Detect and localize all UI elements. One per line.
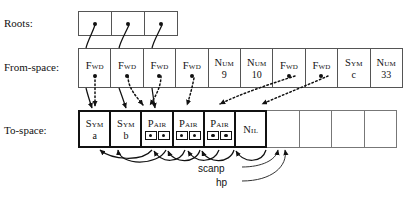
root-to-fromspace-arrows	[86, 25, 162, 48]
pair-car-slot	[207, 131, 219, 140]
to-space-cell: Sym b	[109, 110, 142, 148]
pair-slots	[176, 131, 201, 140]
pair-cdr-slot	[189, 131, 201, 140]
pointer-dot-icon	[149, 134, 152, 137]
pair-slots	[145, 131, 170, 140]
root-to-tospace-arrows	[86, 88, 155, 108]
cell-value: a	[92, 130, 96, 141]
pointer-dot-icon	[224, 134, 227, 137]
pair-cdr-slot	[220, 131, 232, 140]
pair-slots	[207, 131, 232, 140]
cell-tag: Sym	[117, 118, 135, 129]
pair-car-slot	[176, 131, 188, 140]
cell-tag: Pair	[148, 118, 167, 129]
pair-car-slot	[145, 131, 157, 140]
cell-tag: Sym	[86, 118, 104, 129]
to-space-cell: Nil	[234, 110, 267, 148]
pointer-dot-icon	[180, 134, 183, 137]
cell-tag: Nil	[243, 124, 258, 135]
cell-value: b	[123, 130, 128, 141]
forwarding-pointer-arrows	[95, 76, 328, 106]
tospace-internal-arrows	[100, 150, 266, 162]
cell-tag: Pair	[210, 118, 229, 129]
to-space-cell: Pair	[203, 110, 236, 148]
pointer-dot-icon	[162, 134, 165, 137]
to-space-cell: Sym a	[78, 110, 111, 148]
to-space-cell: Pair	[172, 110, 205, 148]
arrow-layer	[0, 0, 415, 200]
diagram-canvas: Roots: From-space: To-space: Fwd Fwd Fwd…	[0, 0, 415, 200]
cell-tag: Pair	[179, 118, 198, 129]
to-space-cell: Pair	[140, 110, 173, 148]
pointer-dot-icon	[193, 134, 196, 137]
pointer-dot-icon	[211, 134, 214, 137]
pair-cdr-slot	[158, 131, 170, 140]
